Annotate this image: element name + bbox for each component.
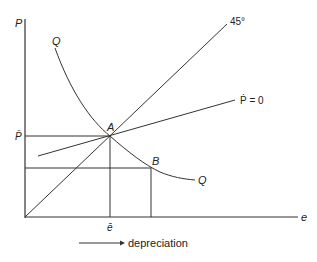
line-45-degree <box>25 24 227 217</box>
depreciation-label: depreciation <box>128 237 188 249</box>
curve-q-label-top: Q <box>52 35 61 47</box>
point-b-label: B <box>152 155 159 167</box>
exchange-rate-diagram: P e Q Q 45° Ṗ = 0 A B P̄ ē depreciation <box>0 0 317 262</box>
line-pdot-zero <box>38 100 235 156</box>
point-a-label: A <box>106 121 114 133</box>
x-axis-label: e <box>301 211 307 223</box>
e-bar-label: ē <box>107 222 113 233</box>
y-axis-label: P <box>15 17 23 29</box>
line-45-label: 45° <box>230 16 245 27</box>
curve-q-label-bottom: Q <box>198 174 207 186</box>
p-bar-label: P̄ <box>15 130 22 142</box>
arrow-head-icon <box>120 241 125 246</box>
pdot-zero-label: Ṗ = 0 <box>240 94 264 106</box>
curve-q <box>55 48 195 180</box>
